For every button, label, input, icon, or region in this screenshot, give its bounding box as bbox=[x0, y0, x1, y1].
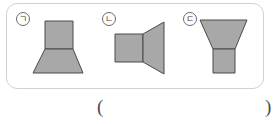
figure-3-drawing bbox=[179, 4, 265, 90]
answer-open-paren: ( bbox=[97, 96, 103, 118]
answer-row: ( ) bbox=[0, 95, 275, 124]
figure-2-drawing bbox=[93, 4, 179, 90]
figure-cell-3: ㄷ bbox=[179, 4, 265, 90]
figure-1-bottom-trapezoid bbox=[33, 49, 83, 73]
answer-close-paren: ) bbox=[265, 96, 271, 118]
figure-cell-2: ㄴ bbox=[93, 4, 179, 90]
figure-cell-1: ㄱ bbox=[7, 4, 93, 90]
page-root: ㄱ ㄴ ㄷ bbox=[0, 0, 275, 124]
figure-2-left-square bbox=[115, 34, 143, 62]
figure-2-right-trapezoid bbox=[143, 22, 164, 74]
figure-1-top-rectangle bbox=[45, 21, 73, 49]
figure-3-bottom-rectangle bbox=[213, 49, 235, 73]
figure-panel: ㄱ ㄴ ㄷ bbox=[6, 3, 264, 89]
figure-3-top-trapezoid bbox=[200, 20, 247, 49]
figure-1-drawing bbox=[7, 4, 93, 90]
